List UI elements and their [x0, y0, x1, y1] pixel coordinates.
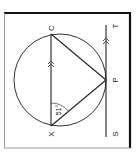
label-s: S	[111, 131, 120, 136]
chord-cp	[51, 34, 106, 80]
angle-label: 51°	[55, 105, 62, 116]
chord-xp	[51, 80, 106, 126]
label-x: X	[47, 131, 56, 137]
label-p: P	[111, 77, 120, 82]
geometry-diagram: C X P S T 51°	[0, 0, 138, 160]
label-c: C	[47, 25, 56, 31]
label-t: T	[111, 23, 120, 28]
